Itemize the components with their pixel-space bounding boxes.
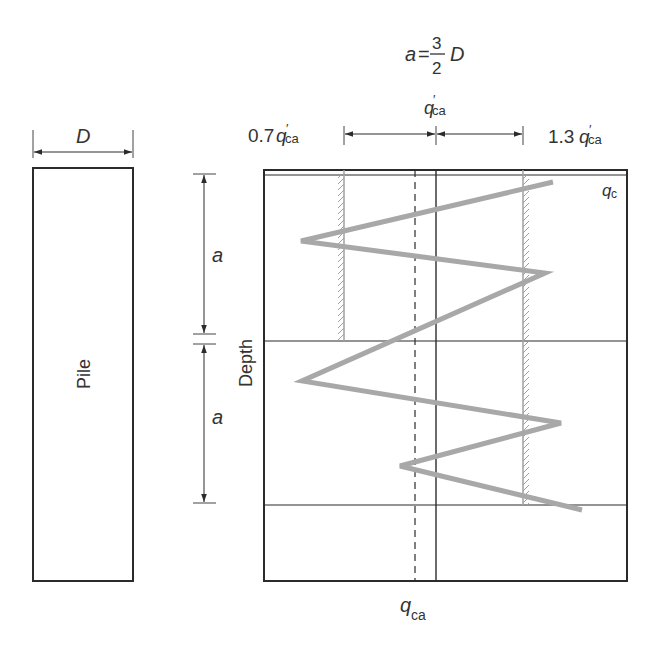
pile-cpt-diagram: a = 3 2 D D Pile a a Depth 0.7 [0, 0, 661, 656]
lower-a-label: a [212, 406, 223, 428]
formula: a = 3 2 D [405, 34, 464, 78]
pile-width-label: D [76, 125, 90, 147]
upper-bound-line [523, 170, 529, 505]
formula-equals: = [418, 43, 430, 65]
formula-a: a [405, 43, 416, 65]
formula-denominator: 2 [432, 59, 441, 78]
upper-a-label: a [212, 244, 223, 266]
pile-label: Pile [74, 359, 94, 389]
pile-width-dimension: D [33, 125, 133, 158]
qc-label: q c [602, 181, 617, 201]
upper-bound-label: 1.3 q ca ′ [548, 122, 603, 147]
depth-dimensions: a a Depth [193, 174, 256, 503]
lower-bound-line [338, 170, 344, 341]
qc-curve [301, 182, 582, 510]
svg-text:q: q [400, 594, 411, 616]
formula-numerator: 3 [432, 34, 441, 53]
qca-axis-label: q ca [400, 594, 426, 623]
svg-text:1.3: 1.3 [548, 126, 574, 147]
mean-label: q ca ′ [424, 92, 447, 118]
svg-text:c: c [611, 187, 617, 201]
formula-D: D [450, 43, 464, 65]
svg-text:0.7: 0.7 [248, 125, 274, 146]
depth-axis-label: Depth [236, 339, 256, 387]
bound-dimensions: 0.7 q ca ′ q ca ′ 1.3 q ca ′ [248, 92, 603, 147]
svg-text:ca: ca [411, 607, 426, 623]
pile: Pile [33, 168, 133, 581]
lower-bound-label: 0.7 q ca ′ [248, 121, 300, 146]
